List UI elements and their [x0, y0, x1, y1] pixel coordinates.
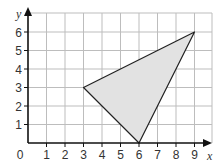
y-axis-label: y [15, 7, 22, 21]
x-tick-2: 2 [62, 148, 69, 162]
coordinate-grid: 0 1 2 3 4 5 6 7 8 9 1 2 3 4 5 6 x y [0, 0, 220, 164]
x-tick-6: 6 [136, 148, 143, 162]
y-tick-3: 3 [15, 81, 22, 95]
x-tick-4: 4 [99, 148, 106, 162]
x-axis-label: x [206, 149, 213, 163]
x-tick-1: 1 [43, 148, 50, 162]
y-tick-6: 6 [15, 26, 22, 40]
x-tick-7: 7 [154, 148, 161, 162]
y-tick-labels: 1 2 3 4 5 6 [15, 26, 22, 133]
y-tick-2: 2 [15, 100, 22, 114]
y-tick-4: 4 [15, 63, 22, 77]
origin-label: 0 [17, 148, 24, 162]
x-tick-5: 5 [117, 148, 124, 162]
y-tick-5: 5 [15, 44, 22, 58]
x-tick-9: 9 [191, 148, 198, 162]
x-tick-labels: 0 1 2 3 4 5 6 7 8 9 [17, 148, 199, 162]
y-tick-1: 1 [15, 118, 22, 132]
x-tick-8: 8 [173, 148, 180, 162]
x-tick-3: 3 [80, 148, 87, 162]
